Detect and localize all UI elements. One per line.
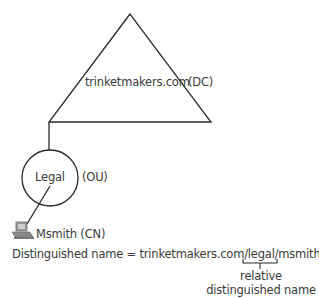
rdn-annotation-line2: distinguished name: [205, 285, 317, 297]
domain-triangle: [49, 14, 211, 122]
domain-type-label: (DC): [188, 77, 213, 89]
dn-prefix: Distinguished name = trinketmakers.com/l…: [12, 247, 278, 261]
ou-name-label: Legal: [35, 172, 65, 184]
domain-name-label: trinketmakers.com: [85, 77, 190, 89]
computer-icon: [12, 222, 34, 239]
dn-rdn-part: msmith: [278, 247, 319, 261]
ou-type-label: (OU): [82, 172, 108, 184]
distinguished-name-line: Distinguished name = trinketmakers.com/l…: [12, 249, 319, 261]
rdn-annotation-line1: relative: [230, 271, 292, 283]
ou-to-cn-connector: [27, 186, 50, 224]
cn-label: Msmith (CN): [36, 229, 105, 241]
